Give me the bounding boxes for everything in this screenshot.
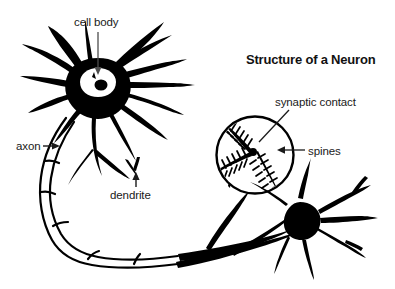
label-spines: spines — [308, 146, 341, 158]
label-axon: axon — [16, 141, 41, 153]
label-synaptic-contact: synaptic contact — [275, 97, 356, 109]
neuron-diagram: Structure of a Neuron cell body axon den… — [0, 0, 395, 289]
nucleolus-right — [293, 213, 305, 223]
nucleolus — [95, 80, 108, 91]
label-cell-body: cell body — [74, 17, 119, 29]
label-dendrite: dendrite — [110, 190, 151, 202]
diagram-title: Structure of a Neuron — [246, 53, 375, 66]
